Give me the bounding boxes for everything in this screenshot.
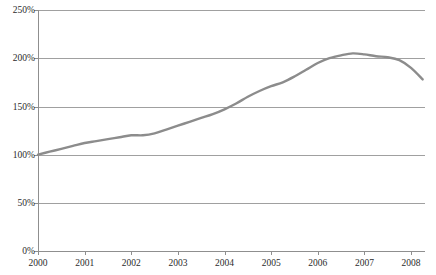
x-axis-labels: 200020012002200320042005200620072008 xyxy=(0,0,436,275)
x-axis-label-2002: 2002 xyxy=(111,258,151,269)
line-chart: 250% 200% 150% 100% 50% 0% 2000200120022… xyxy=(0,0,436,275)
x-axis-label-2008: 2008 xyxy=(391,258,431,269)
x-axis-label-2005: 2005 xyxy=(251,258,291,269)
x-axis-label-2004: 2004 xyxy=(205,258,245,269)
x-axis-label-2007: 2007 xyxy=(344,258,384,269)
x-axis-label-2003: 2003 xyxy=(158,258,198,269)
x-axis-label-2000: 2000 xyxy=(18,258,58,269)
x-axis-label-2006: 2006 xyxy=(298,258,338,269)
x-axis-label-2001: 2001 xyxy=(65,258,105,269)
